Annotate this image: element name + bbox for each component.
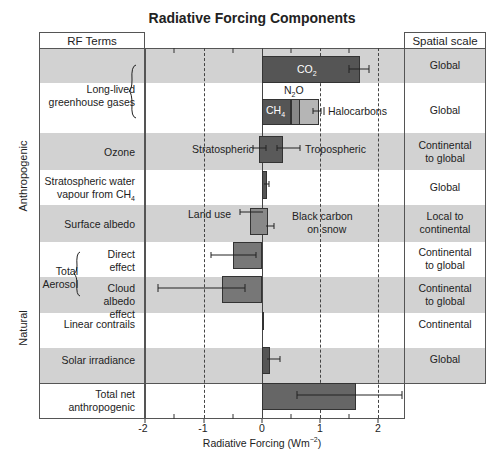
tick-label: 2: [368, 422, 388, 434]
error-bars-layer: [0, 0, 504, 465]
tick-label: 1: [310, 422, 330, 434]
x-axis-label: Radiative Forcing (Wm−2): [200, 436, 324, 449]
tick-label: -1: [193, 422, 213, 434]
tick-label: -2: [133, 422, 153, 434]
tick-label: 0: [252, 422, 272, 434]
